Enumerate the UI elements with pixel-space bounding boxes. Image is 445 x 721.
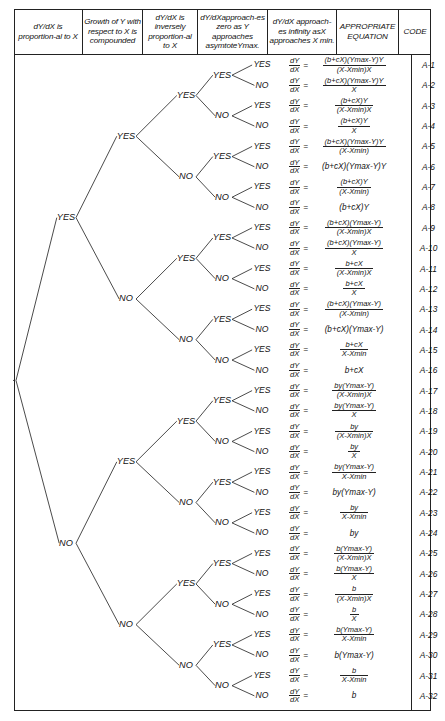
code-cell-a-29[interactable]: A-29	[412, 625, 445, 645]
code-cell-a-23[interactable]: A-23	[412, 503, 445, 523]
tree-edge-level-4	[196, 340, 215, 360]
tree-node-level-4-no-13[interactable]: NO	[215, 599, 229, 609]
tree-node-level-3-yes-2[interactable]: YES	[177, 253, 196, 263]
code-cell-a-19[interactable]: A-19	[412, 421, 445, 441]
tree-node-level-2-no-3[interactable]: NO	[119, 619, 133, 629]
code-cell-a-12[interactable]: A-12	[412, 279, 445, 299]
code-cell-a-15[interactable]: A-15	[412, 340, 445, 360]
code-cell-a-32[interactable]: A-32	[412, 686, 445, 706]
code-cell-a-18[interactable]: A-18	[412, 401, 445, 421]
code-cell-a-14[interactable]: A-14	[412, 320, 445, 340]
tree-leaf-label-a-17[interactable]: YES	[253, 385, 270, 395]
tree-node-level-4-yes-12[interactable]: YES	[213, 558, 232, 568]
code-cell-a-9[interactable]: A-9	[412, 218, 445, 238]
tree-node-level-3-no-5[interactable]: NO	[179, 497, 193, 507]
code-cell-a-10[interactable]: A-10	[412, 238, 445, 258]
tree-leaf-label-a-4[interactable]: NO	[256, 120, 269, 130]
tree-node-level-3-yes-4[interactable]: YES	[177, 416, 196, 426]
tree-node-level-2-yes-2[interactable]: YES	[117, 456, 136, 466]
code-cell-a-6[interactable]: A-6	[412, 157, 445, 177]
code-cell-a-26[interactable]: A-26	[412, 564, 445, 584]
tree-node-level-4-no-5[interactable]: NO	[215, 273, 229, 283]
code-cell-a-3[interactable]: A-3	[412, 96, 445, 116]
code-cell-a-21[interactable]: A-21	[412, 462, 445, 482]
code-cell-a-20[interactable]: A-20	[412, 442, 445, 462]
tree-leaf-label-a-12[interactable]: NO	[256, 283, 269, 293]
tree-node-level-3-no-1[interactable]: NO	[179, 171, 193, 181]
tree-leaf-label-a-18[interactable]: NO	[256, 405, 269, 415]
tree-leaf-label-a-24[interactable]: NO	[256, 527, 269, 537]
code-cell-a-11[interactable]: A-11	[412, 259, 445, 279]
tree-node-level-2-yes-0[interactable]: YES	[117, 131, 136, 141]
tree-node-level-4-no-1[interactable]: NO	[215, 110, 229, 120]
tree-leaf-label-a-23[interactable]: YES	[253, 507, 270, 517]
code-cell-a-27[interactable]: A-27	[412, 584, 445, 604]
tree-node-level-1-no-1[interactable]: NO	[59, 538, 73, 548]
code-cell-a-8[interactable]: A-8	[412, 197, 445, 217]
tree-leaf-label-a-14[interactable]: NO	[256, 324, 269, 334]
tree-leaf-label-a-31[interactable]: YES	[253, 670, 270, 680]
code-cell-a-1[interactable]: A-1	[412, 55, 445, 75]
code-cell-a-17[interactable]: A-17	[412, 381, 445, 401]
tree-leaf-label-a-5[interactable]: YES	[253, 141, 270, 151]
tree-leaf-label-a-2[interactable]: NO	[256, 80, 269, 90]
tree-node-level-4-yes-0[interactable]: YES	[213, 70, 232, 80]
tree-leaf-label-a-8[interactable]: NO	[256, 202, 269, 212]
tree-node-level-4-yes-8[interactable]: YES	[213, 395, 232, 405]
tree-node-level-4-yes-6[interactable]: YES	[213, 314, 232, 324]
tree-leaf-label-a-26[interactable]: NO	[256, 568, 269, 578]
code-cell-a-2[interactable]: A-2	[412, 75, 445, 95]
tree-node-level-4-no-7[interactable]: NO	[215, 355, 229, 365]
tree-leaf-label-a-15[interactable]: YES	[253, 344, 270, 354]
tree-node-level-4-no-11[interactable]: NO	[215, 517, 229, 527]
tree-leaf-label-a-30[interactable]: NO	[256, 649, 269, 659]
tree-node-level-4-yes-2[interactable]: YES	[213, 151, 232, 161]
code-cell-a-16[interactable]: A-16	[412, 360, 445, 380]
tree-node-level-1-yes-0[interactable]: YES	[57, 212, 76, 222]
tree-node-level-3-yes-6[interactable]: YES	[177, 578, 196, 588]
tree-edge-level-5	[232, 523, 254, 533]
code-cell-a-5[interactable]: A-5	[412, 136, 445, 156]
tree-leaf-label-a-7[interactable]: YES	[253, 181, 270, 191]
tree-node-level-4-no-15[interactable]: NO	[215, 680, 229, 690]
tree-leaf-label-a-28[interactable]: NO	[256, 609, 269, 619]
tree-leaf-label-a-3[interactable]: YES	[253, 100, 270, 110]
tree-leaf-label-a-11[interactable]: YES	[253, 263, 270, 273]
tree-node-level-3-no-7[interactable]: NO	[179, 660, 193, 670]
code-cell-a-25[interactable]: A-25	[412, 543, 445, 563]
tree-leaf-label-a-1[interactable]: YES	[253, 59, 270, 69]
tree-leaf-label-a-10[interactable]: NO	[256, 242, 269, 252]
code-cell-a-13[interactable]: A-13	[412, 299, 445, 319]
tree-leaf-label-a-25[interactable]: YES	[253, 548, 270, 558]
tree-leaf-label-a-6[interactable]: NO	[256, 161, 269, 171]
expression-text: (b+cX)Y	[339, 203, 369, 212]
derivative-notation: dYdX	[289, 505, 300, 521]
tree-leaf-label-a-29[interactable]: YES	[253, 629, 270, 639]
tree-node-level-4-no-3[interactable]: NO	[215, 192, 229, 202]
tree-leaf-label-a-20[interactable]: NO	[256, 446, 269, 456]
tree-node-level-3-no-3[interactable]: NO	[179, 334, 193, 344]
code-cell-a-31[interactable]: A-31	[412, 666, 445, 686]
code-cell-a-4[interactable]: A-4	[412, 116, 445, 136]
tree-node-level-4-yes-10[interactable]: YES	[213, 477, 232, 487]
tree-leaf-label-a-16[interactable]: NO	[256, 365, 269, 375]
tree-node-level-4-no-9[interactable]: NO	[215, 436, 229, 446]
equation-cell-a-20: dYdX=byX	[289, 442, 409, 462]
code-cell-a-30[interactable]: A-30	[412, 645, 445, 665]
tree-leaf-label-a-13[interactable]: YES	[253, 303, 270, 313]
tree-leaf-label-a-32[interactable]: NO	[256, 690, 269, 700]
code-cell-a-28[interactable]: A-28	[412, 604, 445, 624]
tree-leaf-label-a-21[interactable]: YES	[253, 466, 270, 476]
tree-node-level-4-yes-14[interactable]: YES	[213, 639, 232, 649]
derivative-notation: dYdX	[289, 98, 300, 114]
tree-leaf-label-a-9[interactable]: YES	[253, 222, 270, 232]
tree-leaf-label-a-19[interactable]: YES	[253, 426, 270, 436]
tree-leaf-label-a-22[interactable]: NO	[256, 487, 269, 497]
tree-node-level-4-yes-4[interactable]: YES	[213, 232, 232, 242]
tree-node-level-2-no-1[interactable]: NO	[119, 293, 133, 303]
code-cell-a-22[interactable]: A-22	[412, 482, 445, 502]
code-cell-a-7[interactable]: A-7	[412, 177, 445, 197]
tree-node-level-3-yes-0[interactable]: YES	[177, 90, 196, 100]
tree-leaf-label-a-27[interactable]: YES	[253, 588, 270, 598]
code-cell-a-24[interactable]: A-24	[412, 523, 445, 543]
